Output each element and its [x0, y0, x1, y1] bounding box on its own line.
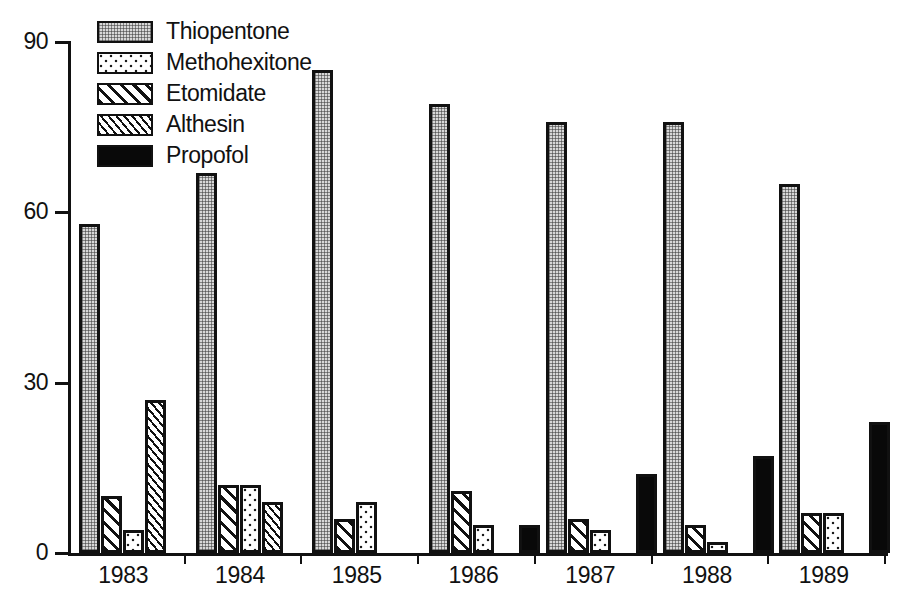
legend-item-althesin: Althesin [97, 111, 312, 138]
x-axis-tick-1983 [184, 553, 186, 564]
bar-etomidate-1984 [218, 485, 239, 553]
y-axis-tick-label: 60 [0, 200, 48, 223]
y-axis-tick-label: 30 [0, 371, 48, 394]
bar-thiopentone-1985 [312, 70, 333, 553]
bar-etomidate-1989 [801, 513, 822, 553]
x-axis-tick-label: 1984 [195, 562, 285, 588]
bar-etomidate-1985 [334, 519, 355, 553]
legend-item-etomidate: Etomidate [97, 80, 312, 107]
legend-item-label: Methohexitone [166, 51, 312, 74]
bar-methohexitone-1983 [123, 530, 144, 553]
bar-group-1986 [421, 42, 538, 553]
bar-methohexitone-1986 [473, 525, 494, 553]
bar-thiopentone-1987 [546, 122, 567, 554]
bar-etomidate-1987 [568, 519, 589, 553]
x-axis-tick-1985 [417, 553, 419, 564]
bar-thiopentone-1988 [663, 122, 684, 554]
legend-item-thiopentone: Thiopentone [97, 18, 312, 45]
x-axis-line [68, 553, 888, 556]
x-axis-tick-label: 1988 [662, 562, 752, 588]
bar-althesin-1983 [145, 400, 166, 553]
bar-etomidate-1983 [101, 496, 122, 553]
legend-swatch-althesin [97, 114, 153, 136]
bar-methohexitone-1988 [707, 542, 728, 553]
legend-item-label: Thiopentone [166, 20, 289, 43]
legend-item-label: Althesin [166, 113, 245, 136]
x-axis-tick-1989 [884, 553, 886, 564]
bar-group-1985 [304, 42, 421, 553]
x-axis-tick-1984 [300, 553, 302, 564]
bar-thiopentone-1983 [79, 224, 100, 553]
bar-althesin-1984 [262, 502, 283, 553]
bar-methohexitone-1987 [590, 530, 611, 553]
legend-swatch-propofol [97, 145, 153, 167]
bar-thiopentone-1984 [196, 173, 217, 553]
x-axis-tick-label: 1986 [429, 562, 519, 588]
x-axis-tick-1988 [767, 553, 769, 564]
x-axis-tick-label: 1985 [312, 562, 402, 588]
y-axis-tick-60 [55, 211, 71, 214]
legend-item-label: Propofol [166, 144, 248, 167]
y-axis-tick-label: 0 [0, 541, 48, 564]
y-axis-tick-30 [55, 382, 71, 385]
bar-group-1989 [771, 42, 888, 553]
bar-etomidate-1988 [685, 525, 706, 553]
bar-group-1987 [538, 42, 655, 553]
bar-methohexitone-1985 [356, 502, 377, 553]
y-axis-tick-90 [55, 41, 71, 44]
x-axis-tick-1987 [651, 553, 653, 564]
bar-etomidate-1986 [451, 491, 472, 553]
bar-group-1988 [655, 42, 772, 553]
bar-chart-figure: 9060300 1983198419851986198719881989 Thi… [0, 0, 910, 609]
chart-legend: ThiopentoneMethohexitoneEtomidateAlthesi… [97, 18, 312, 173]
x-axis-tick-label: 1987 [545, 562, 635, 588]
bar-propofol-1989 [869, 422, 890, 553]
y-axis-tick-label: 90 [0, 30, 48, 53]
legend-swatch-etomidate [97, 83, 153, 105]
bar-thiopentone-1986 [429, 104, 450, 553]
legend-item-label: Etomidate [166, 82, 266, 105]
bar-thiopentone-1989 [779, 184, 800, 553]
legend-swatch-thiopentone [97, 21, 153, 43]
bar-methohexitone-1984 [240, 485, 261, 553]
legend-swatch-methohexitone [97, 52, 153, 74]
x-axis-tick-1986 [534, 553, 536, 564]
legend-item-methohexitone: Methohexitone [97, 49, 312, 76]
bar-methohexitone-1989 [823, 513, 844, 553]
legend-item-propofol: Propofol [97, 142, 312, 169]
x-axis-tick-label: 1983 [78, 562, 168, 588]
x-axis-tick-label: 1989 [779, 562, 869, 588]
